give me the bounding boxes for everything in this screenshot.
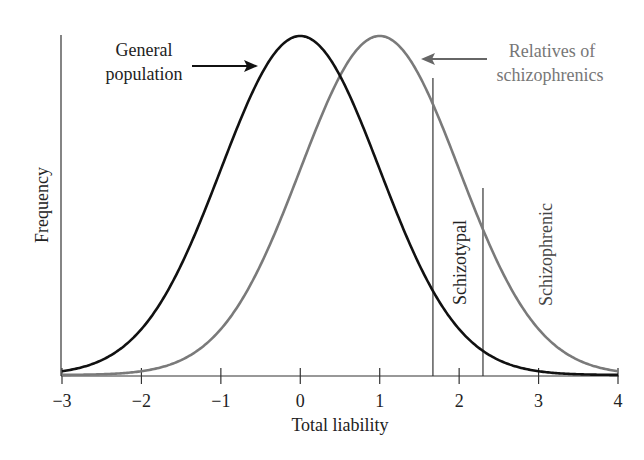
x-tick-label: 1 (375, 391, 384, 411)
liability-threshold-chart: −3−2−101234 General population Relatives… (0, 0, 644, 460)
schizotypal-label: Schizotypal (450, 220, 470, 305)
x-axis-title: Total liability (291, 415, 388, 435)
x-tick-label: −1 (211, 391, 230, 411)
general-population-label-line2: population (106, 64, 183, 84)
x-tick-label: 4 (614, 391, 623, 411)
x-tick-label: −3 (52, 391, 71, 411)
arrow-left-icon (421, 53, 487, 65)
relatives-label-line2: schizophrenics (497, 65, 604, 85)
x-tick-label: 3 (534, 391, 543, 411)
x-tick-label: 2 (455, 391, 464, 411)
y-axis-title: Frequency (32, 167, 52, 243)
x-tick-label: 0 (296, 391, 305, 411)
x-axis-tick-labels: −3−2−101234 (52, 391, 622, 411)
relatives-label-line1: Relatives of (509, 41, 595, 61)
general-population-label-line1: General (116, 40, 173, 60)
schizophrenic-label: Schizophrenic (536, 203, 556, 306)
arrow-right-icon (192, 60, 258, 72)
x-tick-label: −2 (132, 391, 151, 411)
